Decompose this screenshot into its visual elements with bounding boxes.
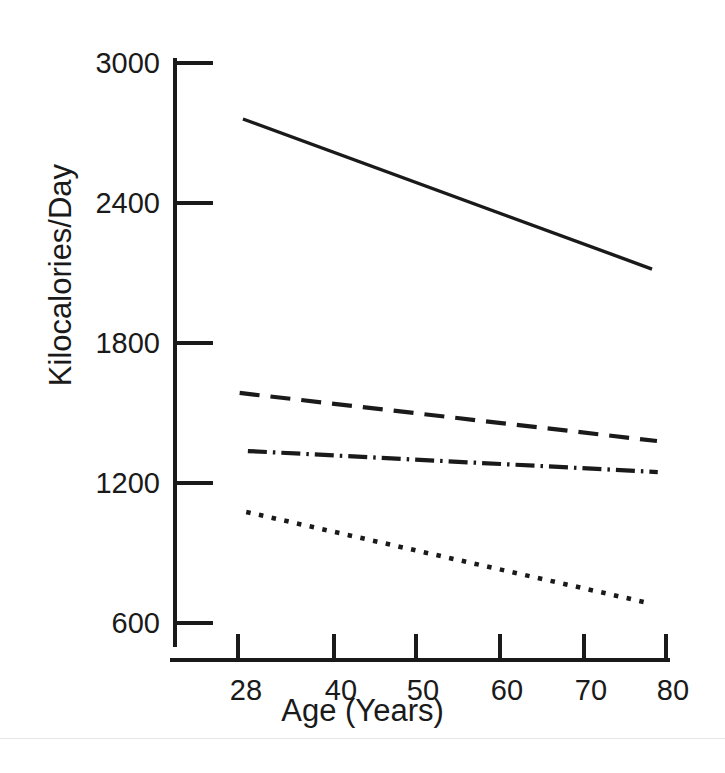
y-tick-label-600: 600 [60, 609, 160, 638]
y-axis-title: Kilocalories/Day [39, 145, 83, 405]
bottom-divider [0, 738, 725, 739]
y-axis-title-wrapper: Kilocalories/Day [23, 253, 67, 513]
y-tick-label-1200: 1200 [60, 469, 160, 498]
chart-plot-area [0, 0, 725, 773]
data-series-group [240, 119, 658, 603]
x-axis-title: Age (Years) [0, 695, 725, 726]
series-dotted-line [246, 512, 648, 603]
y-tick-label-3000: 3000 [60, 49, 160, 78]
series-dash-dot-line [248, 451, 658, 472]
chart-figure: 3000 2400 1800 1200 600 28 40 50 60 70 8… [0, 0, 725, 773]
series-solid-line [243, 119, 652, 269]
series-dashed-line [240, 393, 657, 441]
